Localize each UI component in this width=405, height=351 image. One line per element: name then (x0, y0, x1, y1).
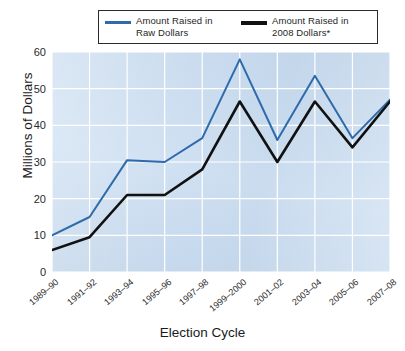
chart-legend: Amount Raised in Raw Dollars Amount Rais… (98, 10, 378, 44)
x-axis-ticks: 1989–901991–921993–941995–961997–981999–… (0, 275, 405, 323)
plot-area (52, 52, 390, 272)
series-line-raw-dollars (52, 59, 390, 235)
plot-svg (52, 52, 390, 272)
legend-swatch-2008-dollars (241, 21, 267, 25)
legend-entry-2008-dollars: Amount Raised in 2008 Dollars* (241, 15, 371, 38)
chart-figure: Amount Raised in Raw Dollars Amount Rais… (0, 0, 405, 351)
gridlines (52, 52, 390, 272)
legend-label-2008-dollars: Amount Raised in 2008 Dollars* (272, 15, 349, 38)
y-axis-title: Millions of Dollars (20, 36, 35, 216)
series-line-2008-dollars (52, 102, 390, 251)
y-tick-label: 10 (2, 229, 46, 241)
legend-entry-raw-dollars: Amount Raised in Raw Dollars (105, 15, 235, 38)
legend-swatch-raw-dollars (105, 21, 131, 24)
legend-label-raw-dollars: Amount Raised in Raw Dollars (136, 15, 213, 38)
x-axis-title: Election Cycle (0, 325, 405, 340)
series-lines (52, 59, 390, 250)
